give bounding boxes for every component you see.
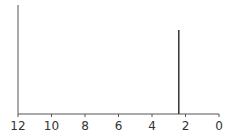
- nmr-spectrum-chart: 121086420: [0, 0, 235, 139]
- x-tick-label: 4: [148, 119, 156, 133]
- x-tick-label: 12: [10, 119, 25, 133]
- x-tick-label: 0: [215, 119, 223, 133]
- x-tick-label: 10: [44, 119, 59, 133]
- x-tick-label: 8: [81, 119, 89, 133]
- x-axis-ticks: 121086420: [10, 114, 222, 133]
- x-tick-label: 2: [182, 119, 190, 133]
- x-tick-label: 6: [115, 119, 123, 133]
